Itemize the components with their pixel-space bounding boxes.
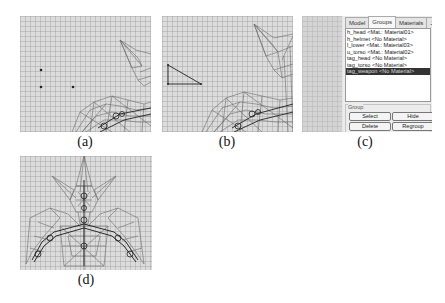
hide-button[interactable]: Hide — [392, 112, 432, 121]
regroup-button[interactable]: Regroup — [392, 122, 432, 131]
tab-joints[interactable]: Joints — [426, 17, 432, 28]
groups-list[interactable]: h_head <Mat.: Material01> h_helmet <No M… — [345, 28, 431, 102]
viewport-panel-a[interactable] — [20, 16, 151, 132]
viewport-panel-b[interactable] — [162, 16, 293, 132]
wireframe-model — [20, 16, 151, 132]
list-item-selected[interactable]: tag_weapon <No Material> — [346, 68, 430, 75]
tab-groups[interactable]: Groups — [368, 16, 396, 28]
caption-a: (a) — [70, 134, 100, 150]
new-triangle-face — [168, 65, 201, 84]
tab-materials[interactable]: Materials — [395, 17, 427, 28]
tab-model[interactable]: Model — [345, 17, 369, 28]
select-button[interactable]: Select — [349, 112, 391, 121]
side-panel: Model Groups Materials Joints h_head <Ma… — [343, 16, 432, 132]
caption-d: (d) — [71, 272, 101, 288]
wireframe-model — [162, 16, 293, 132]
caption-b: (b) — [212, 134, 242, 150]
caption-c: (c) — [350, 134, 380, 150]
viewport-panel-d[interactable] — [20, 156, 152, 270]
group-box: Group Select Hide Delete Regroup — [345, 104, 431, 132]
placed-vertices — [40, 69, 75, 89]
wireframe-model — [20, 156, 152, 270]
tab-bar: Model Groups Materials Joints — [345, 17, 432, 28]
groups-panel: Model Groups Materials Joints h_head <Ma… — [302, 16, 432, 132]
group-box-label: Group — [348, 104, 363, 110]
viewport-strip — [302, 16, 342, 132]
delete-button[interactable]: Delete — [349, 122, 391, 131]
